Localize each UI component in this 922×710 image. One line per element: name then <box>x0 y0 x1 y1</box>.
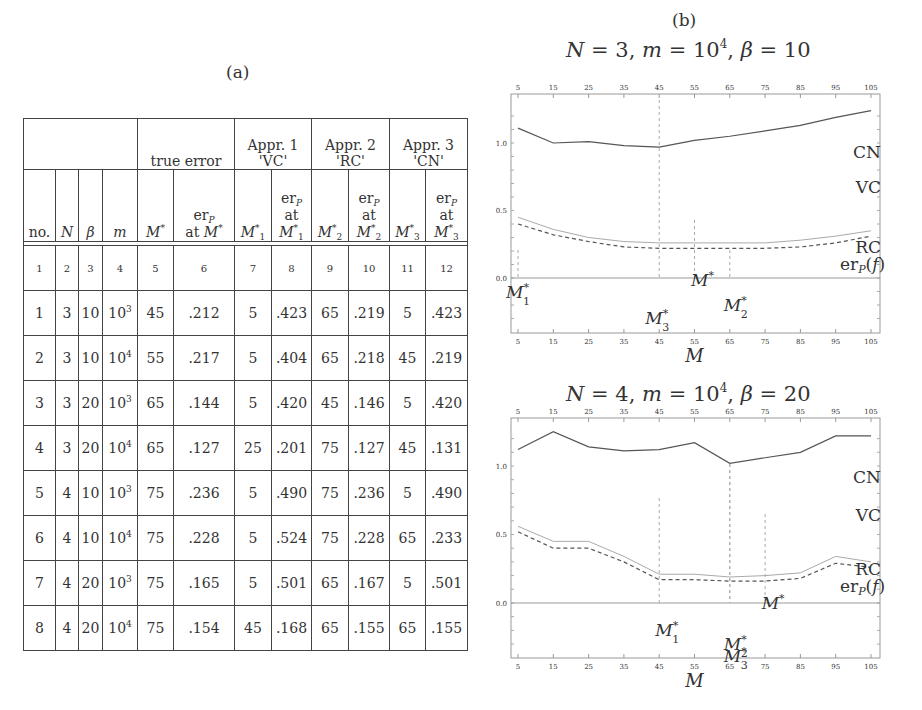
col-header-erP-at-Mstar: erPat M* <box>174 170 235 242</box>
cell-M3: 5 <box>390 291 426 336</box>
chart-n3-m1e4-beta10: 5515152525353545455555656575758585959510… <box>480 80 922 420</box>
series-rc <box>518 526 871 577</box>
x-tick-label-bottom: 95 <box>831 338 840 346</box>
y-tick-label: 0.5 <box>496 207 507 215</box>
cell-er3: .219 <box>426 336 468 381</box>
x-tick-label-top: 15 <box>549 408 558 416</box>
cell-er1: .423 <box>272 291 312 336</box>
title-beta: 10 <box>784 38 811 62</box>
cell-er2: .155 <box>349 606 390 651</box>
cell-er: .127 <box>174 426 235 471</box>
title-N: 3 <box>615 38 628 62</box>
cell-N: 4 <box>56 516 79 561</box>
x-tick-label-top: 5 <box>516 408 520 416</box>
m-exponent: 3 <box>126 304 132 314</box>
col-header-erP-at-M3: erPatM*3 <box>426 170 468 242</box>
cell-er: .144 <box>174 381 235 426</box>
cell-Mstar: 75 <box>138 561 174 606</box>
header-text: Appr. 2 <box>325 137 376 153</box>
col-index: 5 <box>138 246 174 291</box>
plot-frame <box>511 418 880 658</box>
x-tick-label-bottom: 15 <box>549 663 558 671</box>
cell-er1: .404 <box>272 336 312 381</box>
header-text: 'RC' <box>336 153 365 169</box>
x-tick-label-top: 75 <box>761 84 770 92</box>
group-header-true-error: true error <box>138 119 235 170</box>
cell-no: 6 <box>24 516 56 561</box>
cell-no: 2 <box>24 336 56 381</box>
cell-M2: 65 <box>312 291 349 336</box>
m-exponent: 3 <box>126 484 132 494</box>
m-exponent: 4 <box>126 349 132 359</box>
m-base: 10 <box>108 305 126 321</box>
col-header-N: N <box>56 170 79 242</box>
title-var: β <box>741 38 753 62</box>
cell-m: 103 <box>103 471 138 516</box>
m-exponent: 4 <box>126 619 132 629</box>
cell-M2: 65 <box>312 336 349 381</box>
x-tick-label-bottom: 75 <box>761 663 770 671</box>
cell-M2: 65 <box>312 561 349 606</box>
cell-er: .236 <box>174 471 235 516</box>
table-row: 131010345.2125.42365.2195.423 <box>24 291 468 336</box>
cell-M3: 5 <box>390 561 426 606</box>
m-base: 10 <box>108 485 126 501</box>
cell-N: 4 <box>56 561 79 606</box>
x-tick-label-top: 25 <box>584 408 593 416</box>
plot-frame <box>511 94 880 333</box>
cell-M3: 65 <box>390 516 426 561</box>
cell-er1: .490 <box>272 471 312 516</box>
series-cn <box>518 432 871 464</box>
x-tick-label-bottom: 85 <box>796 663 805 671</box>
cell-N: 3 <box>56 336 79 381</box>
cell-m: 103 <box>103 381 138 426</box>
column-index-row: 1 2 3 4 5 6 7 8 9 10 11 12 <box>24 246 468 291</box>
x-tick-label-bottom: 45 <box>655 338 664 346</box>
x-tick-label-bottom: 85 <box>796 338 805 346</box>
marker-label-m1star: M*1 <box>654 619 679 646</box>
cell-er2: .236 <box>349 471 390 516</box>
column-header-row: no. N β m M* erPat M* M*1 erPatM*1 M*2 e… <box>24 170 468 242</box>
x-tick-label-bottom: 95 <box>831 663 840 671</box>
cell-M1: 5 <box>235 516 272 561</box>
title-m-base: 10 <box>693 38 720 62</box>
header-text: 'CN' <box>413 153 444 169</box>
col-index: 10 <box>349 246 390 291</box>
x-tick-label-bottom: 35 <box>619 338 628 346</box>
legend-label-cn: CN <box>853 142 881 162</box>
cell-er1: .420 <box>272 381 312 426</box>
cell-M2: 75 <box>312 471 349 516</box>
col-index: 1 <box>24 246 56 291</box>
x-tick-label-bottom: 75 <box>761 338 770 346</box>
m-base: 10 <box>108 350 126 366</box>
cell-er3: .233 <box>426 516 468 561</box>
title-var: m <box>642 38 662 62</box>
x-tick-label-bottom: 105 <box>864 338 877 346</box>
cell-er1: .201 <box>272 426 312 471</box>
m-base: 10 <box>108 575 126 591</box>
cell-M1: 5 <box>235 381 272 426</box>
m-exponent: 3 <box>126 394 132 404</box>
title-var: N <box>566 38 584 62</box>
cell-Mstar: 75 <box>138 471 174 516</box>
y-tick-label: 0.5 <box>496 531 507 539</box>
header-text: Appr. 3 <box>403 137 454 153</box>
x-tick-label-top: 55 <box>690 408 699 416</box>
cell-er2: .228 <box>349 516 390 561</box>
cell-er2: .219 <box>349 291 390 336</box>
table-row: 842010475.15445.16865.15565.155 <box>24 606 468 651</box>
cell-beta: 10 <box>79 516 103 561</box>
x-tick-label-bottom: 5 <box>516 663 520 671</box>
cell-M2: 75 <box>312 426 349 471</box>
m-exponent: 4 <box>126 439 132 449</box>
cell-no: 1 <box>24 291 56 336</box>
cell-Mstar: 75 <box>138 516 174 561</box>
cell-M2: 75 <box>312 516 349 561</box>
marker-label-m2star: M*2 <box>723 294 748 321</box>
col-index: 3 <box>79 246 103 291</box>
col-header-Mstar: M* <box>138 170 174 242</box>
cell-m: 103 <box>103 561 138 606</box>
m-exponent: 3 <box>126 574 132 584</box>
table-row: 742010375.1655.50165.1675.501 <box>24 561 468 606</box>
y-tick-label: 1.0 <box>496 140 507 148</box>
